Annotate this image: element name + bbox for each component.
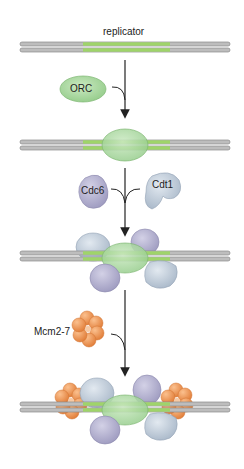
orc-join-curve — [112, 87, 125, 100]
stage-3-complex — [20, 229, 230, 292]
stage-4-pre-rc — [20, 375, 230, 444]
cdc6-label: Cdc6 — [81, 186, 104, 196]
replicator-label: replicator — [103, 27, 144, 37]
diagram-canvas — [0, 0, 244, 469]
mcm-join-curve — [111, 334, 125, 350]
orc-bound — [102, 129, 148, 161]
orc-label: ORC — [70, 84, 92, 94]
mcm-label: Mcm2-7 — [34, 327, 70, 337]
dna-stage-1 — [20, 42, 230, 52]
cdt1-label: Cdt1 — [152, 180, 173, 190]
replication-licensing-diagram: replicator ORC Cdc6 Cdt1 Mcm2-7 — [0, 0, 244, 469]
mcm2-7-complex — [72, 311, 104, 347]
